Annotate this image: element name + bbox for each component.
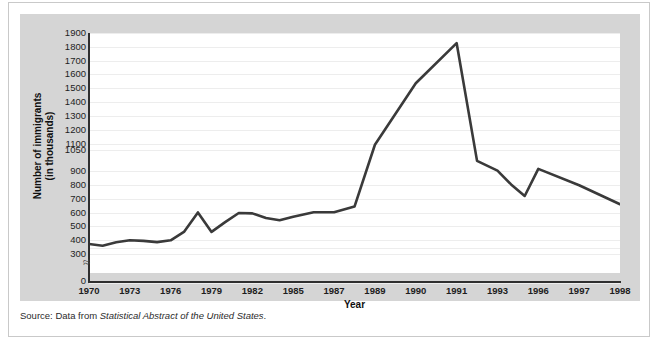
x-axis-title: Year <box>88 299 621 310</box>
y-axis-tick-label: 1800 <box>38 42 86 52</box>
x-axis-tick-label: 1990 <box>396 285 436 297</box>
figure-card: 0300400500600700800900105011001200130014… <box>8 2 650 337</box>
x-axis-tick-label: 1987 <box>314 285 354 297</box>
cut-off-header-text <box>27 3 327 12</box>
y-axis-title-line-1: Number of immigrants <box>32 56 44 236</box>
x-axis-tick-label: 1989 <box>355 285 395 297</box>
x-axis-tick-label: 1997 <box>559 285 599 297</box>
line-chart: 0300400500600700800900105011001200130014… <box>20 14 640 301</box>
x-axis-tick-label: 1970 <box>69 285 109 297</box>
x-axis-tick-label: 1993 <box>477 285 517 297</box>
y-axis-tick-label: 300 <box>38 249 86 259</box>
x-axis-tick-label: 1973 <box>110 285 150 297</box>
x-axis-tick-label: 1998 <box>600 285 640 297</box>
x-axis-tick-label: 1996 <box>518 285 558 297</box>
x-axis-tick-labels: 1970197319761979198219851987198919901991… <box>20 285 640 299</box>
y-axis-line <box>88 33 90 282</box>
source-suffix: . <box>264 310 267 321</box>
data-series-line <box>89 33 620 273</box>
chart-mat: 0300400500600700800900105011001200130014… <box>20 14 640 301</box>
y-axis-tick-label: 1900 <box>38 28 86 38</box>
x-axis-tick-label: 1982 <box>232 285 272 297</box>
y-axis-title: Number of immigrants (in thousands) <box>32 56 56 236</box>
x-axis-tick-label: 1991 <box>437 285 477 297</box>
series-polyline <box>89 43 620 246</box>
x-axis-line <box>88 281 621 283</box>
y-axis-tick-label: 400 <box>38 235 86 245</box>
gridline <box>89 283 620 284</box>
source-note: Source: Data from Statistical Abstract o… <box>20 310 640 322</box>
x-axis-tick-label: 1979 <box>192 285 232 297</box>
x-axis-tick-label: 1985 <box>273 285 313 297</box>
y-axis-title-line-2: (in thousands) <box>44 56 56 236</box>
x-axis-tick-label: 1976 <box>151 285 191 297</box>
source-publication: Statistical Abstract of the United State… <box>100 310 264 321</box>
axis-break-icon: ≈ <box>82 253 98 271</box>
source-prefix: Source: Data from <box>20 310 100 321</box>
